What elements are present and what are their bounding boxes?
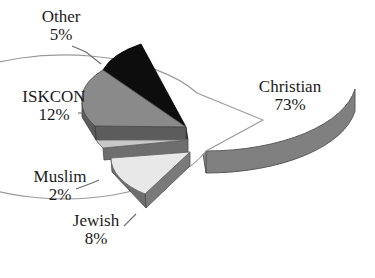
slice-label-christian-pct: 73% [234,96,346,114]
slice-label-muslim-pct: 2% [14,186,106,204]
slice-label-other-pct: 5% [18,26,104,44]
slice-label-iskcon-name: ISKCON [2,88,106,106]
slice-label-jewish: Jewish 8% [52,212,140,248]
slice-label-christian: Christian 73% [234,78,346,114]
slice-label-muslim-name: Muslim [14,168,106,186]
slice-label-jewish-name: Jewish [52,212,140,230]
slice-label-iskcon: ISKCON 12% [2,88,106,124]
slice-label-iskcon-pct: 12% [2,106,106,124]
slice-jewish-3d [111,152,190,208]
slice-label-muslim: Muslim 2% [14,168,106,204]
slice-label-other-name: Other [18,8,104,26]
slice-label-jewish-pct: 8% [52,230,140,248]
slice-label-christian-name: Christian [234,78,346,96]
slice-label-other: Other 5% [18,8,104,44]
pie-chart-figure: Other 5% ISKCON 12% Muslim 2% Jewish 8% … [0,0,375,278]
